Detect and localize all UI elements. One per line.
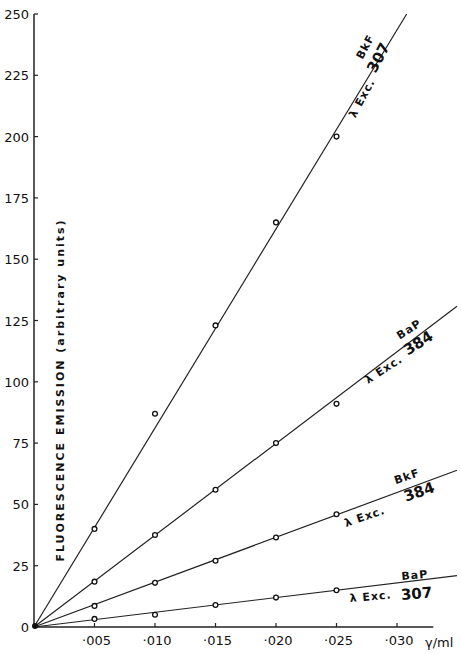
data-point (213, 603, 218, 608)
x-tick-label: ·005 (82, 633, 111, 648)
data-point (334, 512, 339, 517)
y-tick-label: 250 (4, 7, 29, 22)
x-tick-label: ·030 (385, 633, 414, 648)
label-bkf-384: BkF 384 (392, 463, 436, 507)
data-point (334, 401, 339, 406)
data-point (213, 487, 218, 492)
y-axis-title: FLUORESCENCE EMISSION (arbitrary units) (54, 218, 67, 561)
excitation-label: λ Exc. (349, 588, 392, 605)
data-point (334, 588, 339, 593)
y-tick-label: 0 (21, 620, 29, 635)
label-exc-bap-307: λ Exc. (349, 588, 392, 605)
data-point (213, 558, 218, 563)
data-point (274, 220, 279, 225)
y-tick-label: 100 (4, 375, 29, 390)
data-point (274, 441, 279, 446)
fluorescence-chart: 0255075100125150175200225250·005·010·015… (0, 0, 461, 655)
x-tick-label: ·010 (143, 633, 172, 648)
label-bkf-307: BkF 307 (351, 32, 394, 75)
y-tick-label: 125 (4, 314, 29, 329)
series-lines (34, 14, 457, 627)
series-line (34, 470, 457, 627)
y-tick-label: 150 (4, 252, 29, 267)
series-line (34, 306, 457, 627)
data-point (334, 134, 339, 139)
x-tick-label: ·025 (324, 633, 353, 648)
data-point (153, 533, 158, 538)
data-point (92, 604, 97, 609)
x-tick-label: ·020 (264, 633, 293, 648)
y-tick-label: 200 (4, 130, 29, 145)
data-point (153, 411, 158, 416)
y-tick-label: 175 (4, 191, 29, 206)
data-point (153, 580, 158, 585)
series-name: BaP (401, 568, 429, 583)
excitation-value: 307 (400, 583, 433, 604)
y-tick-label: 25 (12, 559, 29, 574)
axes: 0255075100125150175200225250·005·010·015… (4, 7, 433, 648)
y-tick-label: 50 (12, 497, 29, 512)
data-point (92, 617, 97, 622)
excitation-label: λ Exc. (347, 77, 378, 120)
label-exc-bap-384: λ Exc. (363, 353, 405, 387)
label-exc-bkf-384: λ Exc. (343, 504, 387, 530)
label-bap-384: BaP 384 (393, 315, 437, 359)
label-bap-307: BaP 307 (399, 567, 433, 604)
x-axis-title: γ/ml (425, 635, 453, 650)
data-point (213, 323, 218, 328)
series-annotations: BkF 307 λ Exc. BaP 384 λ Exc. BkF 384 λ … (343, 32, 437, 605)
data-point (274, 535, 279, 540)
excitation-label: λ Exc. (343, 504, 387, 530)
x-tick-label: ·015 (203, 633, 232, 648)
origin-point (32, 623, 38, 629)
data-point (92, 527, 97, 532)
data-point (153, 612, 158, 617)
data-point (274, 595, 279, 600)
y-tick-label: 225 (4, 68, 29, 83)
label-exc-bkf-307: λ Exc. (347, 77, 378, 120)
y-tick-label: 75 (12, 436, 29, 451)
data-point (92, 579, 97, 584)
excitation-label: λ Exc. (363, 353, 405, 387)
